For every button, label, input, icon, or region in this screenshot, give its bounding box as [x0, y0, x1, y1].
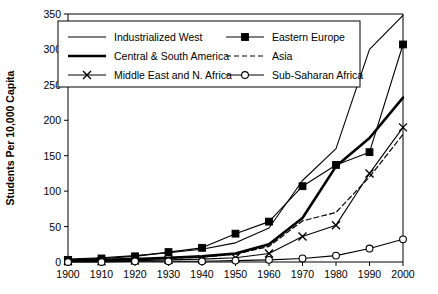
marker-circle-sub-saharan-africa-legend [242, 72, 249, 79]
marker-circle-sub-saharan-africa-8 [333, 252, 340, 259]
y-tick-label-0: 0 [55, 256, 61, 268]
marker-circle-sub-saharan-africa-2 [132, 258, 139, 265]
marker-square-eastern-europe-5 [232, 230, 239, 237]
marker-cross-middle-east-and-n-africa-8 [332, 221, 340, 229]
chart-canvas: 050100150200250300350Students Per 10,000… [0, 0, 438, 294]
x-tick-label-1950: 1950 [224, 268, 248, 280]
marker-square-eastern-europe-7 [299, 183, 306, 190]
series-line-middle-east-and-n-africa [68, 127, 403, 261]
x-tick-label-1960: 1960 [257, 268, 281, 280]
series-middle-east-and-n-africa [64, 123, 407, 265]
marker-circle-sub-saharan-africa-6 [266, 256, 273, 263]
legend-label-sub-saharan-africa: Sub-Saharan Africa [272, 69, 363, 81]
legend-label-asia: Asia [272, 50, 293, 62]
y-tick-label-100: 100 [43, 185, 61, 197]
y-tick-label-50: 50 [49, 221, 61, 233]
x-tick-label-1970: 1970 [291, 268, 315, 280]
marker-circle-sub-saharan-africa-3 [165, 258, 172, 265]
marker-square-eastern-europe-legend [242, 34, 249, 41]
y-axis-title-group: Students Per 10,000 Capita [4, 70, 16, 205]
line-chart: 050100150200250300350Students Per 10,000… [0, 0, 438, 294]
marker-square-eastern-europe-8 [333, 162, 340, 169]
marker-square-eastern-europe-4 [199, 244, 206, 251]
y-tick-label-200: 200 [43, 114, 61, 126]
x-tick-label-2000: 2000 [391, 268, 415, 280]
marker-circle-sub-saharan-africa-9 [366, 245, 373, 252]
x-tick-label-1990: 1990 [358, 268, 382, 280]
x-tick-label-1920: 1920 [123, 268, 147, 280]
marker-circle-sub-saharan-africa-10 [400, 236, 407, 243]
y-axis-title: Students Per 10,000 Capita [4, 70, 16, 205]
marker-circle-sub-saharan-africa-0 [65, 259, 72, 266]
marker-circle-sub-saharan-africa-1 [98, 259, 105, 266]
marker-circle-sub-saharan-africa-7 [299, 255, 306, 262]
x-tick-label-1940: 1940 [190, 268, 214, 280]
marker-square-eastern-europe-9 [366, 149, 373, 156]
x-tick-label-1980: 1980 [324, 268, 348, 280]
y-tick-label-350: 350 [43, 8, 61, 20]
x-tick-label-1910: 1910 [90, 268, 114, 280]
marker-square-eastern-europe-3 [165, 249, 172, 256]
marker-square-eastern-europe-10 [400, 41, 407, 48]
legend-label-central-south-america: Central & South America [114, 50, 229, 62]
legend: Industrialized WestEastern EuropeCentral… [58, 21, 363, 87]
marker-circle-sub-saharan-africa-4 [199, 258, 206, 265]
marker-circle-sub-saharan-africa-5 [232, 257, 239, 264]
y-tick-label-150: 150 [43, 150, 61, 162]
legend-label-eastern-europe: Eastern Europe [272, 31, 345, 43]
legend-label-industrialized-west: Industrialized West [114, 31, 203, 43]
x-tick-label-1930: 1930 [157, 268, 181, 280]
marker-square-eastern-europe-6 [266, 218, 273, 225]
marker-cross-middle-east-and-n-africa-7 [299, 232, 307, 240]
legend-label-middle-east-and-n-africa: Middle East and N. Africa [114, 69, 232, 81]
x-tick-label-1900: 1900 [56, 268, 80, 280]
x-axis: 1900191019201930194019501960197019801990… [56, 262, 415, 280]
